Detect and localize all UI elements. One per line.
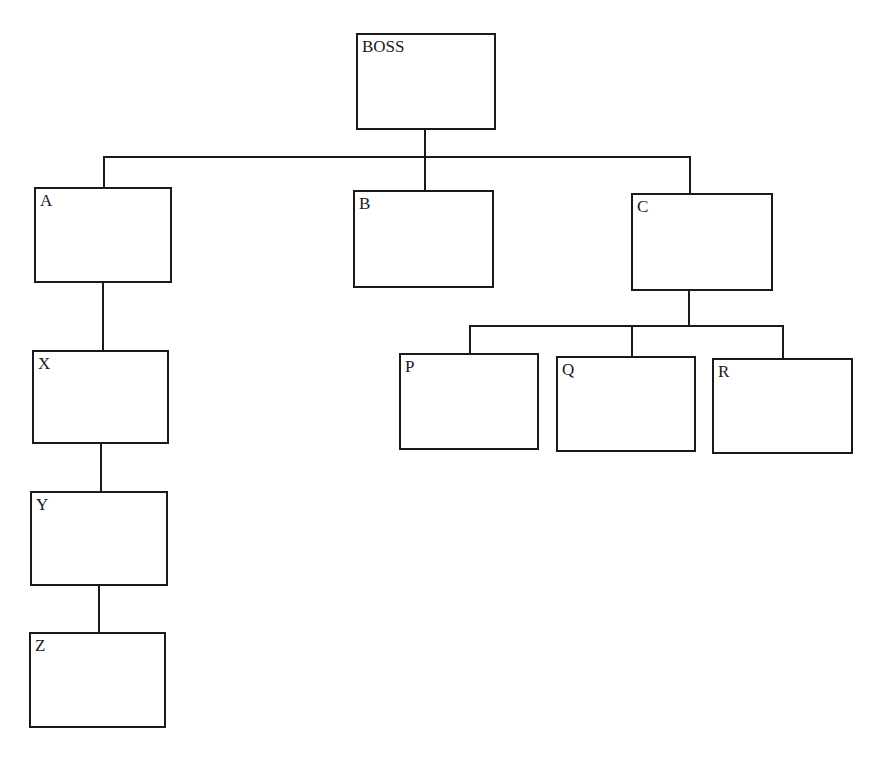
- node-b-label: B: [359, 194, 370, 214]
- node-r-label: R: [718, 362, 729, 382]
- node-r: R: [712, 358, 853, 454]
- node-q: Q: [556, 356, 696, 452]
- connector-to-a: [103, 156, 105, 188]
- connector-boss-down: [424, 130, 426, 158]
- node-p: P: [399, 353, 539, 450]
- node-boss: BOSS: [356, 33, 496, 130]
- node-a-label: A: [40, 191, 52, 211]
- connector-to-b: [424, 156, 426, 191]
- node-z: Z: [29, 632, 166, 728]
- node-b: B: [353, 190, 494, 288]
- connector-a-x: [102, 283, 104, 351]
- connector-to-c: [689, 156, 691, 194]
- node-y-label: Y: [36, 495, 48, 515]
- node-p-label: P: [405, 357, 414, 377]
- node-y: Y: [30, 491, 168, 586]
- node-a: A: [34, 187, 172, 283]
- node-x: X: [32, 350, 169, 444]
- node-q-label: Q: [562, 360, 574, 380]
- node-x-label: X: [38, 354, 50, 374]
- connector-x-y: [100, 444, 102, 492]
- node-boss-label: BOSS: [362, 37, 405, 57]
- connector-to-q: [631, 325, 633, 356]
- connector-level1-horizontal: [103, 156, 690, 158]
- node-c: C: [631, 193, 773, 291]
- connector-to-r: [782, 325, 784, 359]
- connector-y-z: [98, 586, 100, 633]
- connector-to-p: [469, 325, 471, 354]
- connector-c-down: [688, 291, 690, 326]
- node-c-label: C: [637, 197, 648, 217]
- node-z-label: Z: [35, 636, 45, 656]
- connector-level2-horizontal: [469, 325, 783, 327]
